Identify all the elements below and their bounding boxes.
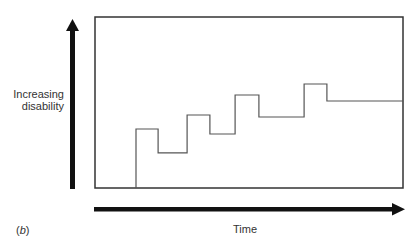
panel-close: )	[26, 224, 30, 236]
x-axis-label: Time	[200, 223, 290, 235]
y-axis-label-line1: Increasing	[0, 88, 64, 100]
y-axis-arrow	[66, 19, 79, 189]
y-axis-label: Increasing disability	[0, 88, 64, 112]
chart	[0, 0, 420, 245]
x-axis-arrow	[94, 203, 405, 216]
step-line-disability	[136, 84, 403, 188]
y-axis-label-line2: disability	[0, 100, 64, 112]
plot-frame	[95, 17, 403, 188]
panel-label: (b)	[16, 224, 29, 236]
